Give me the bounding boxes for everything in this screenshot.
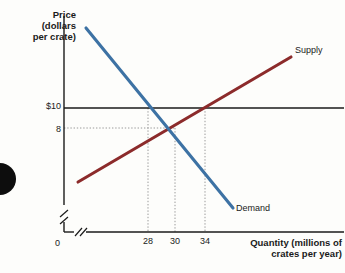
supply-demand-chart: Price (dollars per crate) Quantity (mill… <box>0 0 345 273</box>
y-tick-label-10: $10 <box>31 101 61 111</box>
x-axis-break-icon <box>75 228 87 236</box>
y-axis-title: Price (dollars per crate) <box>14 10 76 43</box>
y-tick-label-8: 8 <box>31 124 61 134</box>
x-axis-title: Quantity (millions of crates per year) <box>222 238 342 260</box>
supply-curve-label: Supply <box>295 45 323 55</box>
demand-curve <box>86 28 233 208</box>
origin-label: 0 <box>55 238 60 248</box>
x-tick-label-30: 30 <box>163 236 187 246</box>
supply-curve <box>78 57 291 182</box>
y-axis-break-icon <box>60 210 68 224</box>
x-tick-label-34: 34 <box>193 236 217 246</box>
x-tick-label-28: 28 <box>136 236 160 246</box>
demand-curve-label: Demand <box>236 203 270 213</box>
